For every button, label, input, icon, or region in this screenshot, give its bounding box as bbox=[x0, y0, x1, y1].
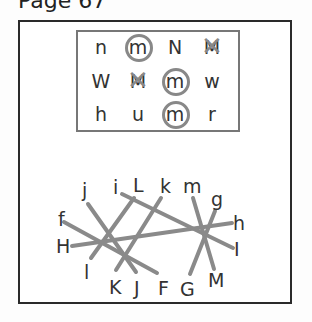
label-g: g bbox=[211, 189, 223, 209]
label-m: m bbox=[183, 176, 202, 196]
matching-lines bbox=[0, 0, 312, 322]
label-K: K bbox=[109, 277, 121, 297]
label-j: j bbox=[82, 180, 87, 200]
label-l: l bbox=[84, 262, 89, 282]
label-J: J bbox=[134, 278, 140, 298]
label-h: h bbox=[233, 213, 245, 233]
label-L: L bbox=[133, 175, 144, 195]
label-M: M bbox=[208, 270, 224, 290]
label-i: i bbox=[113, 177, 118, 197]
label-G: G bbox=[180, 279, 195, 299]
label-H: H bbox=[56, 236, 70, 256]
label-f: f bbox=[58, 209, 65, 229]
label-I: I bbox=[234, 239, 240, 259]
label-F: F bbox=[158, 278, 169, 298]
label-k: k bbox=[160, 176, 171, 196]
